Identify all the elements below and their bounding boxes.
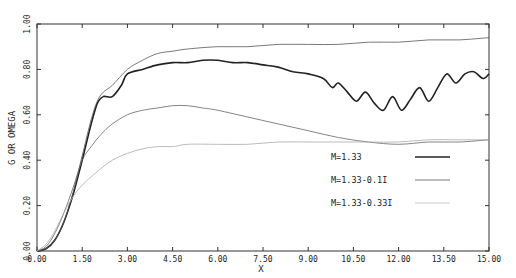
x-axis-ticks: 0.001.503.004.506.007.509.0010.5012.0013… — [27, 24, 501, 264]
x-tick-label: 13.50 — [432, 255, 456, 264]
x-tick-label: 9.00 — [299, 255, 318, 264]
x-axis-title: X — [258, 264, 264, 274]
x-tick-label: 1.50 — [73, 255, 92, 264]
series-line-0 — [37, 60, 489, 251]
legend-label: M=1.33-0.1I — [331, 175, 387, 185]
x-tick-label: 10.50 — [341, 255, 365, 264]
y-tick-label: 0.20 — [23, 196, 32, 215]
x-tick-label: 3.00 — [118, 255, 137, 264]
chart-canvas: 0.001.503.004.506.007.509.0010.5012.0013… — [0, 0, 516, 278]
series-line-1 — [37, 38, 489, 251]
series-layer — [37, 38, 489, 251]
y-tick-label: 0.60 — [23, 105, 32, 124]
y-axis-ticks: 0.000.200.400.600.801.00 — [23, 14, 489, 260]
x-tick-label: 12.00 — [387, 255, 411, 264]
y-tick-label: 0.40 — [23, 150, 32, 169]
y-tick-label: 0.00 — [23, 241, 32, 260]
legend: M=1.33M=1.33-0.1IM=1.33-0.33I — [331, 152, 450, 208]
x-tick-label: 4.50 — [163, 255, 182, 264]
y-axis-title: G OR OMEGA — [7, 110, 17, 165]
x-tick-label: 7.50 — [253, 255, 272, 264]
x-tick-label: 6.00 — [208, 255, 227, 264]
x-tick-label: 15.00 — [477, 255, 501, 264]
y-tick-label: 1.00 — [23, 14, 32, 33]
series-line-2 — [37, 105, 489, 251]
plot-frame — [37, 24, 489, 251]
y-tick-label: 0.80 — [23, 60, 32, 79]
legend-label: M=1.33 — [331, 152, 362, 162]
legend-label: M=1.33-0.33I — [331, 198, 392, 208]
